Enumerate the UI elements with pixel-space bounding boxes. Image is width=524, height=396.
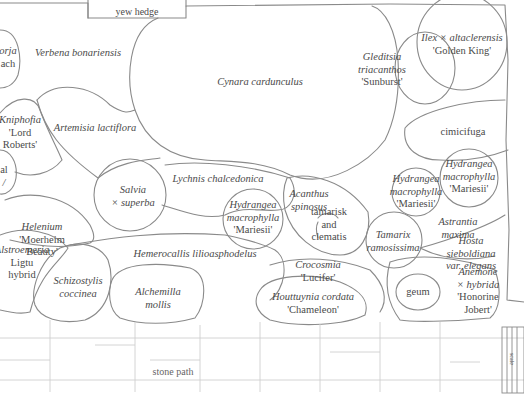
path-label: stone path bbox=[153, 366, 194, 379]
plant-geum: geum bbox=[406, 286, 429, 299]
plant-crocosmia: Crocosmia'Lucifer' bbox=[295, 259, 341, 284]
plant-schizostylis: Schizostyliscoccinea bbox=[54, 275, 103, 300]
plant-salvia: Salvia× superba bbox=[111, 184, 155, 209]
plant-tamarisk: tamariskandclematis bbox=[311, 206, 347, 244]
plant-hydrangea-1: Hydrangeamacrophylla'Mariesii' bbox=[227, 199, 280, 237]
garden-plan bbox=[0, 0, 524, 396]
plant-cimicifuga: cimicifuga bbox=[441, 126, 486, 139]
hedge-label: yew hedge bbox=[115, 6, 158, 19]
plant-alchemilla: Alchemillamollis bbox=[135, 286, 181, 311]
plant-tamarix: Tamarixramosissima bbox=[366, 229, 419, 254]
bed-cynara bbox=[130, 6, 399, 179]
plant-anemone: Anemone× hybrida'HonorineJobert' bbox=[457, 266, 499, 316]
plant-houttuynia: Houttuynia cordata'Chameleon' bbox=[272, 291, 354, 316]
bed-verbena-artemisia bbox=[37, 87, 135, 112]
plant-cynara: Cynara cardunculus bbox=[217, 76, 303, 89]
plant-alstroemeria: AlstroemeriaLigtuhybrid bbox=[0, 244, 49, 282]
plant-ilex: Ilex × altaclerensis'Golden King' bbox=[421, 32, 502, 57]
plant-artemisia: Artemisia lactiflora bbox=[54, 122, 137, 135]
plant-left-top: orjaach bbox=[0, 45, 17, 70]
plant-hydrangea-3: Hydrangeamacrophylla'Mariesii' bbox=[443, 158, 496, 196]
stone-path-paving bbox=[0, 320, 524, 392]
plant-left-mid: al/ bbox=[0, 164, 8, 189]
plant-verbena: Verbena bonariensis bbox=[35, 47, 121, 60]
plant-hemerocallis: Hemerocallis lilioasphodelus bbox=[134, 248, 257, 261]
plant-hydrangea-2: Hydrangeamacrophylla'Mariesii' bbox=[390, 173, 443, 211]
plant-lychnis: Lychnis chalcedonica bbox=[173, 173, 264, 186]
plant-kniphofia: Kniphofia'LordRoberts' bbox=[0, 114, 41, 152]
scale-label: scale bbox=[509, 353, 515, 365]
plant-gleditsia: Gleditsiatriacanthos'Sunburst' bbox=[358, 51, 406, 89]
